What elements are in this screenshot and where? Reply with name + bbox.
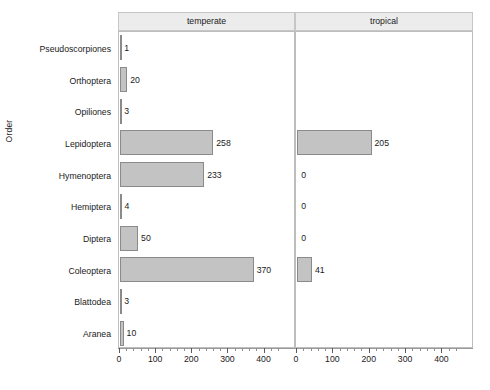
x-tick-major [405, 348, 406, 353]
bar-opiliones-temperate [120, 99, 122, 124]
x-tick-label: 200 [349, 354, 389, 364]
bar-value-label: 10 [127, 327, 137, 339]
category-label: Opiliones [75, 106, 111, 118]
x-tick-minor [318, 348, 319, 351]
x-tick-major [332, 348, 333, 353]
x-tick-minor [235, 348, 236, 351]
bar-value-label: 4 [124, 200, 129, 212]
bar-lepidoptera-temperate [120, 130, 213, 155]
x-tick-minor [278, 348, 279, 351]
x-tick-minor [213, 348, 214, 351]
bar-blattodea-temperate [120, 289, 122, 314]
bar-hymenoptera-temperate [120, 162, 204, 187]
x-tick-minor [162, 348, 163, 351]
x-tick-minor [427, 348, 428, 351]
bar-value-label: 205 [375, 137, 390, 149]
bar-aranea-temperate [120, 321, 124, 346]
x-tick-label: 300 [207, 354, 247, 364]
x-tick-major [191, 348, 192, 353]
x-tick-minor [177, 348, 178, 351]
category-label: Lepidoptera [65, 138, 111, 150]
x-tick-label: 0 [99, 354, 139, 364]
x-tick-label: 200 [171, 354, 211, 364]
x-tick-minor [361, 348, 362, 351]
x-tick-minor [256, 348, 257, 351]
bar-value-label: 0 [301, 200, 306, 212]
panel-strip-tropical: tropical [295, 12, 473, 31]
category-label: Hemiptera [71, 201, 111, 213]
category-label: Aranea [83, 328, 111, 340]
x-tick-minor [271, 348, 272, 351]
category-label: Orthoptera [69, 75, 111, 87]
x-tick-minor [311, 348, 312, 351]
bar-pseudoscorpiones-temperate [120, 35, 122, 60]
category-label: Blattodea [74, 296, 111, 308]
x-axis-tropical: 0100200300400 [295, 348, 473, 372]
x-tick-minor [340, 348, 341, 351]
x-tick-minor [141, 348, 142, 351]
category-label: Hymenoptera [59, 170, 111, 182]
x-tick-minor [391, 348, 392, 351]
x-tick-minor [354, 348, 355, 351]
x-tick-minor [456, 348, 457, 351]
x-tick-minor [206, 348, 207, 351]
x-tick-minor [220, 348, 221, 351]
panel-temperate: 1203258233450370310 [118, 31, 295, 348]
panel-strip-temperate: temperate [118, 12, 295, 31]
x-tick-minor [249, 348, 250, 351]
bar-value-label: 1 [124, 42, 129, 54]
bar-hemiptera-temperate [120, 194, 122, 219]
x-tick-minor [133, 348, 134, 351]
x-tick-label: 100 [312, 354, 352, 364]
x-tick-major [296, 348, 297, 353]
faceted-bar-chart: Order PseudoscorpionesOrthopteraOpilione… [0, 0, 490, 390]
bar-value-label: 258 [216, 137, 231, 149]
x-tick-minor [170, 348, 171, 351]
plot-area-tropical: 20500041 [296, 32, 472, 347]
x-axis-temperate: 0100200300400 [118, 348, 295, 372]
x-tick-minor [376, 348, 377, 351]
x-tick-major [264, 348, 265, 353]
x-tick-label: 300 [385, 354, 425, 364]
x-tick-minor [242, 348, 243, 351]
bar-value-label: 0 [301, 232, 306, 244]
bar-orthoptera-temperate [120, 67, 127, 92]
panel-tropical: 20500041 [295, 31, 473, 348]
category-axis: PseudoscorpionesOrthopteraOpilionesLepid… [12, 33, 115, 348]
x-tick-major [369, 348, 370, 353]
x-tick-label: 0 [276, 354, 316, 364]
bar-value-label: 50 [141, 232, 151, 244]
category-label: Pseudoscorpiones [40, 43, 111, 55]
bar-coleoptera-temperate [120, 257, 254, 282]
category-label: Coleoptera [68, 265, 111, 277]
x-tick-minor [434, 348, 435, 351]
x-tick-minor [325, 348, 326, 351]
x-tick-minor [412, 348, 413, 351]
bar-value-label: 20 [130, 74, 140, 86]
x-tick-minor [148, 348, 149, 351]
x-tick-major [119, 348, 120, 353]
bar-diptera-temperate [120, 226, 138, 251]
x-tick-minor [347, 348, 348, 351]
bar-value-label: 41 [315, 264, 325, 276]
x-tick-minor [126, 348, 127, 351]
x-tick-minor [420, 348, 421, 351]
x-tick-minor [199, 348, 200, 351]
x-tick-label: 400 [421, 354, 461, 364]
x-tick-label: 100 [135, 354, 175, 364]
x-tick-minor [383, 348, 384, 351]
bar-value-label: 233 [207, 169, 222, 181]
x-tick-minor [398, 348, 399, 351]
x-tick-major [155, 348, 156, 353]
x-tick-minor [184, 348, 185, 351]
x-tick-minor [303, 348, 304, 351]
bar-lepidoptera-tropical [297, 130, 372, 155]
x-tick-major [441, 348, 442, 353]
bar-value-label: 0 [301, 169, 306, 181]
category-label: Diptera [83, 233, 111, 245]
plot-area-temperate: 1203258233450370310 [119, 32, 294, 347]
x-tick-major [227, 348, 228, 353]
bar-value-label: 370 [257, 264, 272, 276]
bar-value-label: 3 [124, 105, 129, 117]
bar-value-label: 3 [124, 295, 129, 307]
